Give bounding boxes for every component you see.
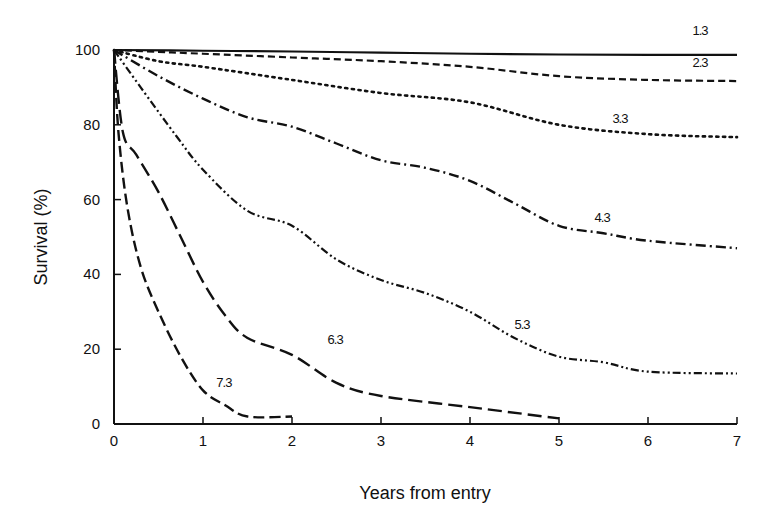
series-label-6-3: 6.3 bbox=[328, 332, 344, 347]
series-label-3-3: 3.3 bbox=[612, 111, 628, 126]
series-label-2-3: 2.3 bbox=[693, 55, 709, 70]
x-tick-label: 5 bbox=[555, 432, 563, 449]
x-tick-label: 2 bbox=[288, 432, 296, 449]
y-tick-label: 60 bbox=[83, 191, 100, 208]
series-labels: 1.32.33.34.35.36.37.3 bbox=[216, 23, 708, 390]
survival-chart: 01234567020406080100 1.32.33.34.35.36.37… bbox=[0, 0, 770, 523]
y-tick-label: 20 bbox=[83, 340, 100, 357]
x-tick-label: 7 bbox=[733, 432, 741, 449]
y-tick-label: 0 bbox=[92, 415, 100, 432]
x-axis-label: Years from entry bbox=[359, 483, 490, 503]
x-tick-label: 3 bbox=[377, 432, 385, 449]
series-line-7-3 bbox=[114, 50, 292, 417]
series-lines bbox=[114, 50, 737, 418]
x-tick-label: 1 bbox=[199, 432, 207, 449]
y-axis-label: Survival (%) bbox=[31, 188, 51, 285]
x-tick-label: 0 bbox=[110, 432, 118, 449]
series-label-4-3: 4.3 bbox=[595, 210, 611, 225]
y-tick-label: 40 bbox=[83, 265, 100, 282]
axes: 01234567020406080100 bbox=[75, 41, 741, 449]
x-tick-label: 4 bbox=[466, 432, 474, 449]
series-label-1-3: 1.3 bbox=[693, 23, 709, 38]
y-tick-label: 80 bbox=[83, 116, 100, 133]
y-tick-label: 100 bbox=[75, 41, 100, 58]
series-line-5-3 bbox=[114, 50, 737, 374]
series-line-6-3 bbox=[114, 50, 559, 418]
series-label-7-3: 7.3 bbox=[216, 375, 232, 390]
x-tick-label: 6 bbox=[644, 432, 652, 449]
series-label-5-3: 5.3 bbox=[515, 317, 531, 332]
